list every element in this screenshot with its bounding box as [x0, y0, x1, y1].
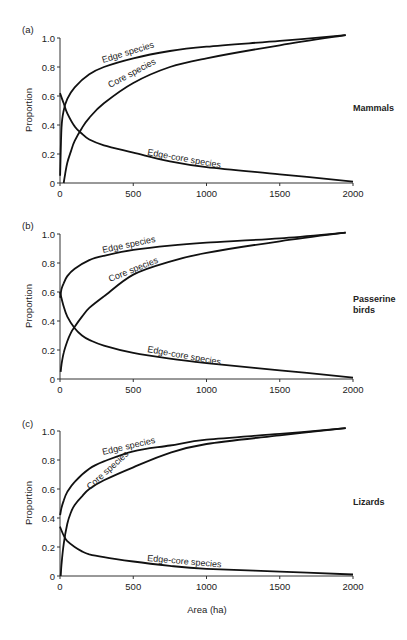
panel-label: (a)	[22, 24, 34, 35]
y-tick-label: 0.2	[42, 149, 55, 160]
x-tick-label: 1500	[269, 384, 290, 395]
x-tick-label: 2000	[342, 384, 363, 395]
edge-species-label: Edge species	[101, 435, 156, 457]
x-tick-label: 1000	[196, 384, 217, 395]
y-axis-title: Proportion	[23, 284, 34, 328]
taxon-label: Mammals	[353, 103, 394, 113]
taxon-label: Lizards	[353, 497, 385, 507]
y-tick-label: 0.8	[42, 455, 55, 466]
x-tick-label: 0	[57, 188, 62, 199]
y-tick-label: 0	[50, 571, 55, 582]
panel-label: (c)	[22, 418, 33, 429]
x-tick-label: 1500	[269, 188, 290, 199]
y-tick-label: 0.6	[42, 287, 55, 298]
x-tick-label: 0	[57, 384, 62, 395]
taxon-line: Mammals	[353, 103, 394, 113]
y-tick-label: 0.2	[42, 345, 55, 356]
y-tick-label: 0.8	[42, 258, 55, 269]
y-tick-label: 0.4	[42, 120, 55, 131]
x-tick-label: 2000	[342, 581, 363, 592]
y-tick-label: 1.0	[42, 229, 55, 240]
x-axis-title: Area (ha)	[187, 604, 227, 615]
panel-label: (b)	[22, 220, 34, 231]
y-tick-label: 0.2	[42, 542, 55, 553]
y-axis-title: Proportion	[23, 88, 34, 132]
y-tick-label: 0	[50, 374, 55, 385]
taxon-line: birds	[353, 305, 375, 315]
panel-a: (a) Proportion 00.20.40.60.81.0050010001…	[22, 24, 394, 199]
y-tick-label: 0.8	[42, 62, 55, 73]
panel-b: (b) Proportion 00.20.40.60.81.0050010001…	[22, 220, 398, 395]
y-axis-title: Proportion	[23, 481, 34, 525]
x-tick-label: 500	[125, 188, 141, 199]
edge-core-species-label: Edge-core species	[147, 344, 223, 367]
y-tick-label: 0.4	[42, 316, 55, 327]
x-tick-label: 2000	[342, 188, 363, 199]
x-tick-label: 500	[125, 581, 141, 592]
x-tick-label: 1000	[196, 581, 217, 592]
taxon-label: Passerine birds	[353, 294, 398, 315]
figure: (a) Proportion 00.20.40.60.81.0050010001…	[0, 0, 407, 640]
core-species-label: Core species	[107, 255, 160, 284]
x-tick-label: 0	[57, 581, 62, 592]
plot-area: 00.20.40.60.81.00500100015002000	[42, 33, 364, 200]
y-tick-label: 1.0	[42, 426, 55, 437]
plot-area: 00.20.40.60.81.00500100015002000	[42, 229, 364, 396]
y-tick-label: 0.4	[42, 513, 55, 524]
x-tick-label: 1500	[269, 581, 290, 592]
taxon-line: Passerine	[353, 294, 396, 304]
panel-c: (c) Proportion 00.20.40.60.81.0050010001…	[22, 418, 385, 592]
edge-speciescurve	[60, 233, 346, 298]
y-tick-label: 0	[50, 178, 55, 189]
y-tick-label: 0.6	[42, 484, 55, 495]
y-tick-label: 0.6	[42, 91, 55, 102]
y-tick-label: 1.0	[42, 33, 55, 44]
edge-species-label: Edge species	[101, 234, 156, 255]
x-tick-label: 500	[125, 384, 141, 395]
x-tick-label: 1000	[196, 188, 217, 199]
edge-core-speciescurve	[60, 93, 353, 182]
edge-core-species-label: Edge-core species	[147, 147, 223, 170]
edge-core-speciescurve	[60, 292, 353, 378]
taxon-line: Lizards	[353, 497, 385, 507]
